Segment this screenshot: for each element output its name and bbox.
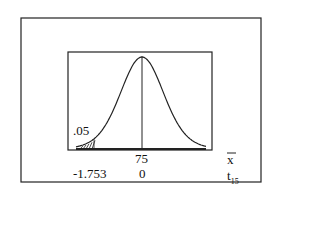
t-critical-label: -1.753: [73, 167, 107, 180]
t-axis-label: t15: [227, 169, 239, 188]
alpha-label: .05: [73, 124, 89, 137]
plot-frame: [68, 52, 212, 150]
density-curve: [76, 57, 206, 147]
t-zero-label: 0: [139, 167, 146, 180]
xbar-tick-label: 75: [135, 152, 148, 165]
xbar-axis-label: x: [227, 153, 234, 166]
